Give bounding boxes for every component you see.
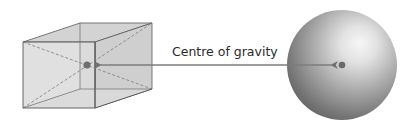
cuboid-front-face [23,42,95,108]
centre-of-gravity-diagram [0,0,417,126]
cuboid-centre-of-gravity-dot [83,61,90,68]
sphere-centre-of-gravity-dot [339,62,346,69]
centre-of-gravity-label: Centre of gravity [172,44,278,59]
